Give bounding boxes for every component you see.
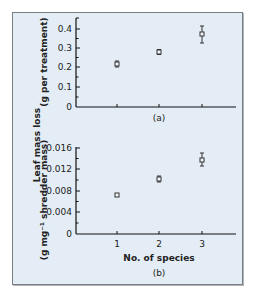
b-tick-0: 0 [66, 229, 72, 239]
a-tick-2: 0.2 [58, 62, 72, 72]
caption-a: (a) [153, 113, 166, 123]
a-tick-3: 0.3 [58, 43, 72, 53]
caption-b: (b) [153, 268, 166, 278]
x-tick-2: 2 [156, 239, 162, 249]
x-tick-3: 3 [199, 239, 205, 249]
x-axis-label: No. of species [123, 253, 194, 263]
panel-a-y-label: (g per treatment) [39, 17, 49, 106]
b-tick-1: 0.004 [46, 207, 72, 217]
chart-svg: Leaf mass loss (g per treatment) 0 0.1 0… [0, 0, 256, 292]
b-point-2 [157, 177, 161, 181]
a-tick-4: 0.4 [58, 24, 73, 34]
x-tick-1: 1 [114, 239, 120, 249]
a-tick-0: 0 [66, 102, 72, 112]
a-point-2 [157, 50, 161, 54]
panel-b: (g mg⁻¹ shredder mass) 0 0.004 0.008 0.0… [39, 140, 236, 278]
b-tick-2: 0.008 [46, 186, 72, 196]
b-point-3 [200, 158, 204, 162]
a-tick-1: 0.1 [58, 82, 72, 92]
panel-b-y-label: (g mg⁻¹ shredder mass) [39, 140, 49, 260]
b-point-1 [115, 193, 119, 197]
a-point-3 [200, 32, 204, 36]
panel-a: (g per treatment) 0 0.1 0.2 0.3 0.4 (a) [39, 17, 236, 123]
b-tick-4: 0.016 [46, 143, 72, 153]
a-point-1 [115, 62, 119, 66]
b-tick-3: 0.012 [46, 164, 72, 174]
